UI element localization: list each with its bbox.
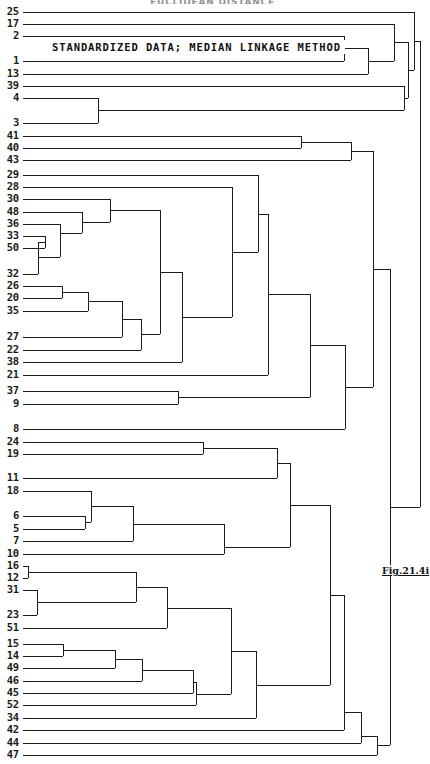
leaf-label-30: 30: [7, 192, 19, 204]
leaf-label-26: 26: [7, 279, 19, 291]
leaf-label-34: 34: [7, 711, 19, 723]
leaf-label-27: 27: [7, 330, 19, 342]
leaf-label-32: 32: [7, 267, 19, 279]
leaf-label-44: 44: [7, 736, 19, 748]
leaf-label-46: 46: [7, 674, 19, 686]
leaf-labels: 2517211339434140432928304836335032262035…: [7, 5, 19, 760]
leaf-label-22: 22: [7, 343, 19, 355]
dendrogram-links: [23, 12, 420, 755]
leaf-label-13: 13: [7, 67, 19, 79]
leaf-label-18: 18: [7, 484, 19, 496]
leaf-label-3: 3: [13, 116, 19, 128]
leaf-label-48: 48: [7, 205, 19, 217]
leaf-label-28: 28: [7, 180, 19, 192]
figure-caption: Fig.21.4i: [381, 565, 430, 576]
leaf-label-50: 50: [7, 241, 19, 253]
leaf-label-31: 31: [7, 583, 19, 595]
leaf-label-24: 24: [7, 435, 19, 447]
leaf-label-42: 42: [7, 723, 19, 735]
leaf-label-41: 41: [7, 129, 19, 141]
leaf-label-21: 21: [7, 368, 19, 380]
leaf-label-9: 9: [13, 397, 19, 409]
leaf-label-10: 10: [7, 547, 19, 559]
leaf-label-43: 43: [7, 153, 19, 165]
leaf-label-37: 37: [7, 384, 19, 396]
leaf-label-19: 19: [7, 447, 19, 459]
leaf-label-40: 40: [7, 141, 19, 153]
leaf-label-2: 2: [13, 29, 19, 41]
leaf-label-39: 39: [7, 79, 19, 91]
leaf-label-12: 12: [7, 571, 19, 583]
leaf-label-6: 6: [13, 509, 19, 521]
leaf-label-35: 35: [7, 304, 19, 316]
chart-subtitle: STANDARDIZED DATA; MEDIAN LINKAGE METHOD: [48, 40, 345, 54]
leaf-label-5: 5: [13, 522, 19, 534]
leaf-label-51: 51: [7, 621, 19, 633]
leaf-label-7: 7: [13, 534, 19, 546]
leaf-label-33: 33: [7, 229, 19, 241]
leaf-label-4: 4: [13, 91, 19, 103]
leaf-label-38: 38: [7, 355, 19, 367]
leaf-label-8: 8: [13, 422, 19, 434]
leaf-label-15: 15: [7, 637, 19, 649]
leaf-label-52: 52: [7, 698, 19, 710]
leaf-label-11: 11: [7, 471, 19, 483]
leaf-label-29: 29: [7, 168, 19, 180]
leaf-label-1: 1: [13, 54, 19, 66]
leaf-label-23: 23: [7, 608, 19, 620]
leaf-label-47: 47: [7, 748, 19, 760]
leaf-label-14: 14: [7, 649, 19, 661]
leaf-label-45: 45: [7, 686, 19, 698]
leaf-label-49: 49: [7, 661, 19, 673]
leaf-label-36: 36: [7, 217, 19, 229]
leaf-label-17: 17: [7, 17, 19, 29]
leaf-label-20: 20: [7, 291, 19, 303]
leaf-label-16: 16: [7, 559, 19, 571]
leaf-label-25: 25: [7, 5, 19, 17]
